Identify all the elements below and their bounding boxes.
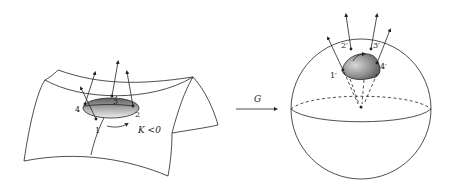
label-vertex-3: 3 [113, 97, 118, 106]
label-vertex-4-prime: 4′ [380, 62, 387, 71]
gauss-map-figure: 1 2 3 4 K <0 G 1′ 2′ 3′ 4′ [0, 0, 456, 192]
label-vertex-4: 4 [75, 105, 80, 114]
label-vertex-3-prime: 3′ [373, 41, 380, 50]
sphere-patch [328, 15, 390, 104]
equator-front [291, 109, 431, 122]
figure-canvas: 1 2 3 4 K <0 G 1′ 2′ 3′ 4′ [0, 0, 456, 192]
label-vertex-2-prime: 2′ [341, 41, 348, 50]
curvature-label: K <0 [137, 125, 161, 135]
saddle-surface [24, 70, 218, 176]
label-vertex-2: 2 [135, 110, 140, 119]
saddle-patch [81, 62, 139, 127]
label-vertex-1-prime: 1′ [330, 71, 337, 80]
sphere-center [360, 106, 363, 109]
label-vertex-1: 1 [95, 126, 100, 135]
normal-vector-3 [112, 62, 118, 96]
saddle-outline [24, 70, 218, 176]
map-label: G [254, 94, 261, 104]
orientation-arrow-icon [107, 124, 127, 127]
